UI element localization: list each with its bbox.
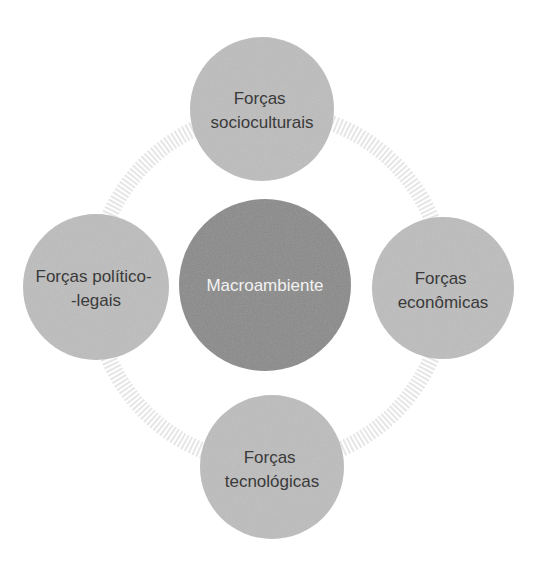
node-circle: [200, 395, 344, 539]
node-label-line: socioculturais: [211, 113, 314, 132]
node-circle: [23, 214, 169, 360]
node-circle: [190, 37, 334, 181]
macroambiente-diagram: Macroambiente Forças socioculturais Forç…: [0, 0, 544, 563]
node-forcas-politico-legais: Forças político- -legais: [23, 214, 169, 360]
node-forcas-socioculturais: Forças socioculturais: [190, 37, 334, 181]
node-label-line: econômicas: [398, 293, 489, 312]
node-label-line: tecnológicas: [225, 472, 320, 491]
node-label-line: Forças: [234, 89, 286, 108]
center-label: Macroambiente: [206, 276, 323, 295]
center-node-macroambiente: Macroambiente: [179, 199, 351, 371]
node-label-line: Forças: [244, 448, 296, 467]
node-label-line: -legais: [71, 291, 121, 310]
node-label-line: Forças: [415, 269, 467, 288]
node-label-line: Forças político-: [36, 267, 152, 286]
node-circle: [372, 217, 514, 359]
node-forcas-economicas: Forças econômicas: [372, 217, 514, 359]
node-forcas-tecnologicas: Forças tecnológicas: [200, 395, 344, 539]
